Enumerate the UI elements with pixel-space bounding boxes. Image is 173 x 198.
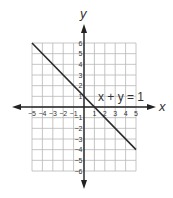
y-tick-label: 5 (79, 50, 83, 57)
x-axis-left-arrow-icon (12, 104, 21, 110)
y-tick-label: −3 (75, 136, 83, 143)
x-tick-label: −5 (28, 110, 36, 117)
y-tick-label: −4 (75, 146, 83, 153)
y-axis-label: y (79, 6, 88, 21)
y-tick-label: 4 (79, 61, 83, 68)
axes (12, 24, 156, 189)
y-tick-label: −6 (75, 168, 83, 175)
y-tick-label: −1 (75, 114, 83, 121)
y-axis-down-arrow-icon (81, 180, 87, 189)
x-tick-label: −2 (59, 110, 67, 117)
y-tick-label: 6 (79, 40, 83, 47)
x-tick-label: −4 (38, 110, 46, 117)
x-tick-label: 3 (113, 110, 117, 117)
x-tick-label: −3 (49, 110, 57, 117)
x-axis-right-arrow-icon (147, 104, 156, 110)
y-tick-label: 3 (79, 72, 83, 79)
x-axis-label: x (158, 99, 166, 114)
x-tick-label: 5 (134, 110, 138, 117)
coordinate-plane: −5−4−3−2−112345654321−1−2−3−4−5−6 x y x … (0, 0, 173, 198)
x-tick-label: 4 (124, 110, 128, 117)
y-axis-up-arrow-icon (81, 24, 87, 33)
x-tick-label: 1 (92, 110, 96, 117)
y-tick-label: −5 (75, 157, 83, 164)
y-tick-label: −2 (75, 125, 83, 132)
y-tick-label: 2 (79, 82, 83, 89)
equation-label: x + y = 1 (98, 90, 144, 104)
